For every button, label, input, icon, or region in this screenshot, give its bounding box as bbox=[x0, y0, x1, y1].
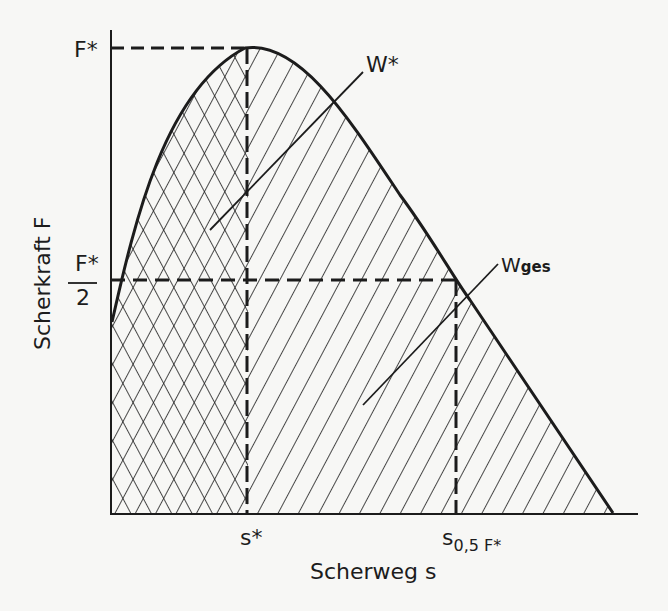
y-tick-peak-force: F* bbox=[74, 37, 98, 62]
w-star-label: W* bbox=[366, 52, 399, 77]
w-ges-label: Wges bbox=[501, 253, 551, 277]
x-tick-half-disp-main: s bbox=[442, 525, 453, 550]
x-axis-label: Scherweg s bbox=[310, 559, 437, 584]
x-tick-peak-disp: s* bbox=[240, 525, 262, 550]
w-ges-label-sub: ges bbox=[521, 258, 551, 276]
x-tick-half-disp-sub: 0,5 F* bbox=[453, 536, 501, 555]
y-tick-half-force-numerator: F* bbox=[75, 251, 99, 276]
y-tick-half-force-denominator: 2 bbox=[76, 285, 90, 310]
shear-force-diagram: F* F* 2 Scherkraft F s* s0,5 F* Scherweg… bbox=[0, 0, 668, 611]
y-axis-label: Scherkraft F bbox=[30, 217, 55, 350]
w-ges-label-main: W bbox=[501, 253, 521, 277]
x-tick-half-disp: s0,5 F* bbox=[442, 525, 501, 555]
